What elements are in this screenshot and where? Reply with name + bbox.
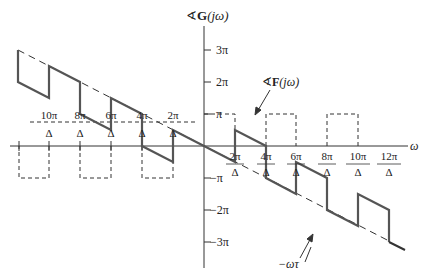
f-phase-label: ∢F(jω) [262, 75, 299, 89]
xtick-6pi-den: Δ [292, 166, 299, 178]
x-tick-labels-positive: 2π Δ 4π Δ 6π Δ 8π Δ 10π Δ 12π Δ [226, 150, 401, 178]
xtick-neg-10pi-num: 10π [41, 109, 58, 121]
ytick-m2pi: −2π [210, 203, 229, 217]
xtick-neg-6pi-num: 6π [105, 109, 117, 121]
xtick-8pi-num: 8π [321, 150, 333, 162]
phase-plot: ∢G(jω) ω 3π 2π π −π −2π −3π 10π Δ 8π Δ 6… [0, 0, 422, 277]
xtick-10pi-den: Δ [354, 166, 361, 178]
ytick-pi: π [216, 107, 222, 121]
xtick-2pi-den: Δ [231, 166, 238, 178]
xtick-4pi-num: 4π [260, 150, 272, 162]
x-axis-label: ω [410, 139, 418, 153]
xtick-12pi-num: 12π [381, 150, 398, 162]
xtick-10pi-num: 10π [350, 150, 367, 162]
ytick-mpi: −π [210, 171, 223, 185]
xtick-6pi-num: 6π [290, 150, 302, 162]
xtick-4pi-den: Δ [262, 166, 269, 178]
xtick-12pi-den: Δ [385, 166, 392, 178]
xtick-neg-6pi-den: Δ [107, 127, 114, 139]
xtick-neg-10pi-den: Δ [45, 127, 52, 139]
xtick-neg-2pi-num: 2π [167, 109, 179, 121]
ytick-2pi: 2π [216, 75, 228, 89]
xtick-2pi-num: 2π [229, 150, 241, 162]
axes [10, 26, 408, 268]
x-tick-labels-negative: 10π Δ 8π Δ 6π Δ 4π Δ 2π Δ [41, 109, 179, 139]
xtick-neg-4pi-den: Δ [138, 127, 145, 139]
y-axis-label: ∢G(jω) [186, 8, 229, 23]
xtick-neg-4pi-num: 4π [136, 109, 148, 121]
ytick-3pi: 3π [216, 43, 228, 57]
xtick-neg-8pi-den: Δ [76, 127, 83, 139]
ytick-m3pi: −3π [210, 235, 229, 249]
xtick-neg-8pi-num: 8π [74, 109, 86, 121]
xtick-neg-2pi-den: Δ [169, 127, 176, 139]
xtick-8pi-den: Δ [323, 166, 330, 178]
minus-omega-tau-label: −ωτ [278, 257, 300, 271]
